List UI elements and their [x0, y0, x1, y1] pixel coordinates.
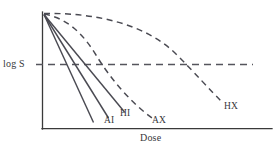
series-label-ai: AI	[104, 116, 114, 126]
series-label-hx: HX	[224, 102, 238, 112]
y-axis-label: log S	[3, 59, 25, 69]
series-label-hi: HI	[120, 109, 130, 119]
curve-ai	[44, 15, 94, 123]
series-label-ax: AX	[152, 116, 166, 126]
dose-response-figure: log S Dose AI HI AX HX	[0, 0, 279, 155]
curve-hi	[44, 15, 125, 113]
x-axis-label: Dose	[140, 133, 161, 143]
